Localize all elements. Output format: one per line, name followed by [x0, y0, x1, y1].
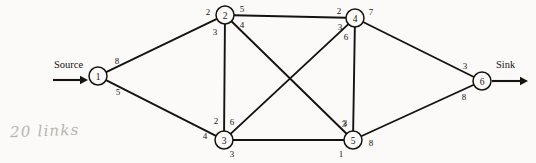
- source-label: Source: [54, 59, 83, 70]
- capacity-label-4-6-to: 3: [463, 61, 468, 71]
- node-label-1: 1: [96, 72, 101, 82]
- sink-label: Sink: [496, 59, 516, 70]
- edges-layer: [106, 15, 474, 140]
- node-4[interactable]: 4: [346, 9, 364, 27]
- edge-1-3: [106, 80, 216, 136]
- capacity-label-4-5-to: 3: [342, 119, 347, 129]
- edge-2-4: [234, 15, 346, 18]
- capacity-label-4-6-from: 7: [369, 7, 374, 17]
- capacity-label-3-4-from: 6: [230, 117, 235, 127]
- network-graph-canvas: SourceSink 123456 82543252436331637388: [0, 0, 536, 163]
- capacity-label-1-2-from: 8: [115, 56, 120, 66]
- node-2[interactable]: 2: [216, 6, 234, 24]
- capacity-label-2-4-to: 2: [337, 6, 342, 16]
- node-label-2: 2: [223, 11, 228, 21]
- node-3[interactable]: 3: [215, 131, 233, 149]
- network-flow-diagram: SourceSink 123456 82543252436331637388 2…: [0, 0, 536, 163]
- edge-1-2: [106, 19, 217, 72]
- handwritten-annotation: 20 links: [10, 121, 80, 141]
- capacity-labels-layer: 82543252436331637388: [115, 4, 468, 159]
- capacity-label-3-5-from: 3: [230, 149, 235, 159]
- capacity-label-2-4-from: 5: [240, 4, 245, 14]
- node-6[interactable]: 6: [473, 72, 491, 90]
- capacity-label-1-3-from: 5: [116, 87, 121, 97]
- node-label-3: 3: [222, 136, 227, 146]
- source-arrow: [53, 76, 88, 84]
- capacity-label-3-4-to: 3: [338, 22, 343, 32]
- sink-arrow: [492, 77, 528, 85]
- node-1[interactable]: 1: [89, 67, 107, 85]
- node-label-5: 5: [351, 136, 356, 146]
- capacity-label-5-6-from: 8: [369, 138, 374, 148]
- node-5[interactable]: 5: [344, 131, 362, 149]
- capacity-label-3-5-to: 1: [339, 149, 344, 159]
- capacity-label-1-3-to: 4: [203, 131, 208, 141]
- edge-2-3: [224, 24, 225, 131]
- edge-5-6: [361, 85, 474, 137]
- capacity-label-4-5-from: 6: [344, 32, 349, 42]
- node-label-6: 6: [480, 77, 485, 87]
- capacity-label-2-3-to: 2: [214, 116, 219, 126]
- capacity-label-1-2-to: 2: [206, 7, 211, 17]
- node-label-4: 4: [353, 14, 358, 24]
- edge-4-5: [353, 27, 355, 131]
- capacity-label-2-5-from: 4: [240, 20, 245, 30]
- capacity-label-5-6-to: 8: [462, 92, 467, 102]
- edge-4-6: [363, 22, 474, 77]
- capacity-label-2-3-from: 3: [213, 27, 218, 37]
